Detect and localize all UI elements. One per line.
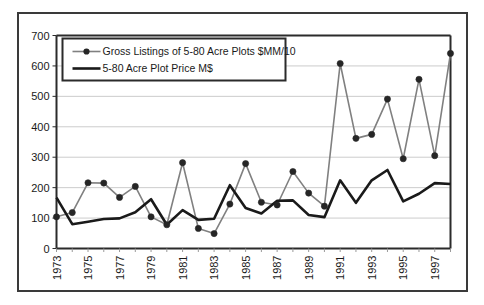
y-tick-label-100: 100 <box>31 212 49 224</box>
x-tick-label-1989: 1989 <box>303 256 315 280</box>
legend-label: 5-80 Acre Plot Price M$ <box>103 62 213 74</box>
x-tick-label-1973: 1973 <box>51 256 63 280</box>
data-point-1976 <box>101 180 107 186</box>
chart-figure: 0100200300400500600700197319751977197919… <box>0 0 484 305</box>
legend-label: Gross Listings of 5-80 Acre Plots $MM/10 <box>103 45 296 57</box>
data-point-1977 <box>116 194 122 200</box>
x-tick-label-1977: 1977 <box>114 256 126 280</box>
data-point-1987 <box>274 202 280 208</box>
line-chart: 0100200300400500600700197319751977197919… <box>0 0 484 305</box>
x-tick-label-1981: 1981 <box>177 256 189 280</box>
x-tick-label-1993: 1993 <box>366 256 378 280</box>
legend-entry-gross-listings: Gross Listings of 5-80 Acre Plots $MM/10 <box>73 45 296 57</box>
data-point-1975 <box>85 180 91 186</box>
data-point-1992 <box>353 135 359 141</box>
y-tick-label-500: 500 <box>31 90 49 102</box>
y-tick-label-700: 700 <box>31 30 49 42</box>
data-point-1997 <box>432 153 438 159</box>
data-point-1973 <box>53 214 59 220</box>
y-tick-label-0: 0 <box>43 243 49 255</box>
data-point-1974 <box>69 209 75 215</box>
data-point-1990 <box>321 203 327 209</box>
x-tick-label-1979: 1979 <box>145 256 157 280</box>
data-point-1982 <box>195 225 201 231</box>
x-tick-label-1983: 1983 <box>208 256 220 280</box>
data-point-1985 <box>243 161 249 167</box>
data-point-1980 <box>164 222 170 228</box>
data-point-1983 <box>211 230 217 236</box>
chart-legend: Gross Listings of 5-80 Acre Plots $MM/10… <box>63 39 296 81</box>
data-point-1996 <box>416 76 422 82</box>
x-tick-label-1997: 1997 <box>429 256 441 280</box>
y-tick-label-300: 300 <box>31 151 49 163</box>
data-point-1979 <box>148 214 154 220</box>
series-line-plot-price <box>57 170 451 225</box>
y-tick-label-200: 200 <box>31 182 49 194</box>
data-point-1984 <box>227 201 233 207</box>
data-point-1993 <box>369 131 375 137</box>
data-point-1994 <box>384 96 390 102</box>
x-tick-label-1995: 1995 <box>397 256 409 280</box>
data-point-1995 <box>400 156 406 162</box>
data-point-1988 <box>290 168 296 174</box>
data-point-1978 <box>132 183 138 189</box>
y-tick-label-400: 400 <box>31 121 49 133</box>
y-axis-ticks: 0100200300400500600700 <box>31 30 56 255</box>
x-tick-label-1991: 1991 <box>334 256 346 280</box>
data-point-1981 <box>179 160 185 166</box>
data-point-1986 <box>258 199 264 205</box>
data-point-1989 <box>306 190 312 196</box>
data-point-1998 <box>447 50 453 56</box>
y-tick-label-600: 600 <box>31 60 49 72</box>
x-tick-label-1985: 1985 <box>240 256 252 280</box>
data-point-1991 <box>337 60 343 66</box>
legend-swatch-marker <box>83 48 89 54</box>
x-axis-labels: 1973197519771979198119831985198719891991… <box>51 256 441 280</box>
x-tick-label-1975: 1975 <box>82 256 94 280</box>
x-tick-label-1987: 1987 <box>271 256 283 280</box>
